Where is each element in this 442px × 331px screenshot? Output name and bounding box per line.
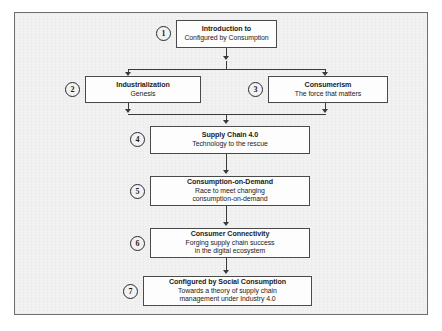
arrowhead-to-node5-icon xyxy=(223,170,229,174)
arrowhead-to-node3-icon xyxy=(322,72,328,76)
node-title: Consumerism xyxy=(305,82,352,90)
step-badge-7: 7 xyxy=(123,284,138,299)
node-consumerism: Consumerism The force that matters xyxy=(268,76,388,103)
arrowhead-to-node2-icon xyxy=(125,72,131,76)
connector-bus-top-riser xyxy=(226,61,227,69)
connector-node6-to-node7 xyxy=(226,258,227,270)
node-subtitle-line: Technology to the rescue xyxy=(192,140,267,148)
node-subtitle-line: Genesis xyxy=(131,90,156,98)
connector-node5-to-node6 xyxy=(226,206,227,222)
node-industrialization: Industrialization Genesis xyxy=(85,76,201,103)
step-badge-6: 6 xyxy=(130,236,145,251)
node-title: Consumer Connectivity xyxy=(191,231,270,239)
step-badge-4: 4 xyxy=(130,132,145,147)
flowchart-diagram: Introduction to Configured by Consumptio… xyxy=(0,0,442,331)
node-subtitle-line: Forging supply chain success xyxy=(186,239,275,247)
node-subtitle-line: Race to meet changing xyxy=(195,187,265,195)
node-supply-chain-40: Supply Chain 4.0 Technology to the rescu… xyxy=(150,126,310,154)
node-title: Industrialization xyxy=(116,82,170,90)
step-badge-3: 3 xyxy=(248,82,263,97)
connector-bus-top xyxy=(128,69,326,70)
step-badge-1: 1 xyxy=(156,26,171,41)
node-title: Consumption-on-Demand xyxy=(187,179,273,187)
node-consumption-on-demand: Consumption-on-Demand Race to meet chang… xyxy=(150,176,310,206)
node-configured-by-social-consumption: Configured by Social Consumption Towards… xyxy=(143,276,312,306)
node-title: Introduction to xyxy=(202,26,251,34)
node-title: Configured by Social Consumption xyxy=(169,279,286,287)
node-subtitle-line: management under Industry 4.0 xyxy=(179,295,275,303)
arrowhead-node2-down-icon xyxy=(125,109,131,113)
node-title: Supply Chain 4.0 xyxy=(202,132,258,140)
node-subtitle-line: Configured by Consumption xyxy=(184,34,268,42)
node-subtitle-line: Towards a theory of supply chain xyxy=(178,287,277,295)
connector-node4-to-node5 xyxy=(226,154,227,170)
arrowhead-to-node6-icon xyxy=(223,222,229,226)
node-subtitle-line: consumption-on-demand xyxy=(192,195,267,203)
arrowhead-node3-down-icon xyxy=(322,109,328,113)
arrowhead-to-node7-icon xyxy=(223,270,229,274)
step-badge-2: 2 xyxy=(65,82,80,97)
node-subtitle-line: The force that matters xyxy=(295,90,361,98)
node-introduction: Introduction to Configured by Consumptio… xyxy=(176,20,277,48)
arrowhead-node1-down-icon xyxy=(223,56,229,60)
node-consumer-connectivity: Consumer Connectivity Forging supply cha… xyxy=(150,228,310,258)
arrowhead-to-node4-icon xyxy=(223,120,229,124)
node-subtitle-line: in the digital ecosystem xyxy=(195,247,265,255)
step-badge-5: 5 xyxy=(130,184,145,199)
